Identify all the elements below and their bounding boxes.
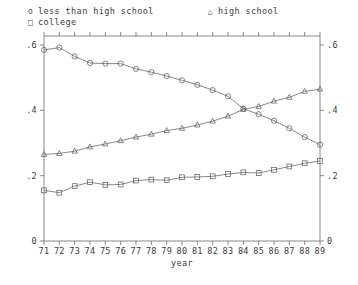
x-axis-title: year — [171, 258, 193, 268]
series-high-school — [41, 86, 322, 156]
series-line-2 — [44, 161, 320, 193]
x-axis-label-89: 89 — [315, 246, 326, 256]
chart-container: o less than high school △ high school □ … — [0, 0, 358, 285]
x-axis-label-86: 86 — [269, 246, 280, 256]
x-axis-label-88: 88 — [299, 246, 310, 256]
x-axis-label-83: 83 — [223, 246, 234, 256]
series-less-than-high-school — [41, 45, 322, 147]
x-axis-label-85: 85 — [253, 246, 264, 256]
x-axis-label-74: 74 — [85, 246, 96, 256]
series-line-1 — [44, 89, 320, 154]
y-axis-label-right-1: .2 — [327, 171, 338, 181]
x-axis-label-80: 80 — [177, 246, 188, 256]
y-axis-label-right-0: 0 — [327, 236, 332, 246]
x-axis-label-77: 77 — [131, 246, 142, 256]
x-axis-label-75: 75 — [100, 246, 111, 256]
y-axis-label-left-2: .4 — [26, 105, 37, 115]
x-axis-label-71: 71 — [39, 246, 50, 256]
y-axis-label-right-2: .4 — [327, 105, 338, 115]
x-axis-label-79: 79 — [161, 246, 172, 256]
x-axis-label-81: 81 — [192, 246, 203, 256]
series-college — [42, 159, 323, 195]
x-axis-label-73: 73 — [69, 246, 80, 256]
y-axis-label-left-0: 0 — [32, 236, 37, 246]
x-axis-label-76: 76 — [115, 246, 126, 256]
x-axis-label-72: 72 — [54, 246, 65, 256]
x-axis-label-87: 87 — [284, 246, 295, 256]
plot-area: 00.2.2.4.4.6.671727374757677787980818283… — [0, 0, 358, 285]
x-axis-label-82: 82 — [207, 246, 218, 256]
x-axis-label-78: 78 — [146, 246, 157, 256]
y-axis-label-right-3: .6 — [327, 40, 338, 50]
axis-frame — [44, 36, 320, 241]
y-axis-label-left-3: .6 — [26, 40, 37, 50]
x-axis-label-84: 84 — [238, 246, 249, 256]
y-axis-label-left-1: .2 — [26, 171, 37, 181]
